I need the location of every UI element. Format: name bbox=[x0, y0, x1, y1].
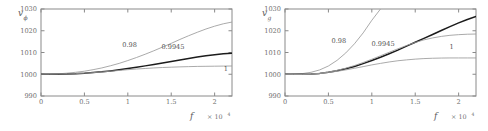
chart-panel-right: 990100010101020103000.511.520.980.99451v… bbox=[244, 0, 488, 131]
x-tick-label: 2 bbox=[457, 98, 461, 106]
curve-label-1: 1 bbox=[450, 43, 454, 51]
x-axis-title: f bbox=[433, 111, 439, 121]
figure-container: 990100010101020103000.511.520.980.99451v… bbox=[0, 0, 488, 131]
curve-0.9945 bbox=[41, 53, 232, 74]
y-tick-label: 990 bbox=[24, 92, 37, 100]
y-axis-title: v bbox=[262, 8, 267, 18]
x-axis-exponent-power: 4 bbox=[228, 112, 231, 117]
x-tick-label: 2 bbox=[213, 98, 217, 106]
chart-panel-left: 990100010101020103000.511.520.980.99451v… bbox=[0, 0, 244, 131]
y-tick-label: 1000 bbox=[20, 71, 37, 79]
curve-label-0.9945: 0.9945 bbox=[372, 40, 395, 48]
x-tick-label: 1.5 bbox=[166, 98, 177, 106]
chart-svg-left: 990100010101020103000.511.520.980.99451v… bbox=[0, 0, 244, 131]
y-tick-label: 1020 bbox=[20, 27, 37, 35]
y-tick-label: 1010 bbox=[20, 49, 37, 57]
x-tick-label: 1 bbox=[370, 98, 374, 106]
y-axis-title-subscript: g bbox=[268, 14, 272, 22]
chart-svg-right: 990100010101020103000.511.520.980.99451v… bbox=[244, 0, 488, 131]
curve-label-0.98: 0.98 bbox=[331, 37, 346, 45]
x-tick-label: 0.5 bbox=[79, 98, 90, 106]
curve-label-1: 1 bbox=[224, 65, 228, 73]
x-tick-label: 1.5 bbox=[410, 98, 421, 106]
x-axis-exponent: × 10 bbox=[207, 113, 223, 121]
plot-frame bbox=[285, 9, 476, 96]
y-tick-label: 990 bbox=[268, 92, 281, 100]
x-tick-label: 1 bbox=[126, 98, 130, 106]
y-axis-title: v bbox=[18, 8, 23, 18]
y-tick-label: 1010 bbox=[264, 49, 281, 57]
curve-label-0.98: 0.98 bbox=[122, 41, 137, 49]
y-tick-label: 1000 bbox=[264, 71, 281, 79]
curve-label-0.9945: 0.9945 bbox=[161, 43, 184, 51]
x-axis-exponent-power: 4 bbox=[472, 112, 475, 117]
x-tick-label: 0.5 bbox=[323, 98, 334, 106]
y-axis-title-subscript: ϕ bbox=[24, 14, 28, 22]
plot-frame bbox=[41, 9, 232, 96]
y-tick-label: 1020 bbox=[264, 27, 281, 35]
x-axis-title: f bbox=[189, 111, 195, 121]
x-axis-exponent: × 10 bbox=[451, 113, 467, 121]
x-tick-label: 0 bbox=[39, 98, 43, 106]
x-tick-label: 0 bbox=[283, 98, 287, 106]
